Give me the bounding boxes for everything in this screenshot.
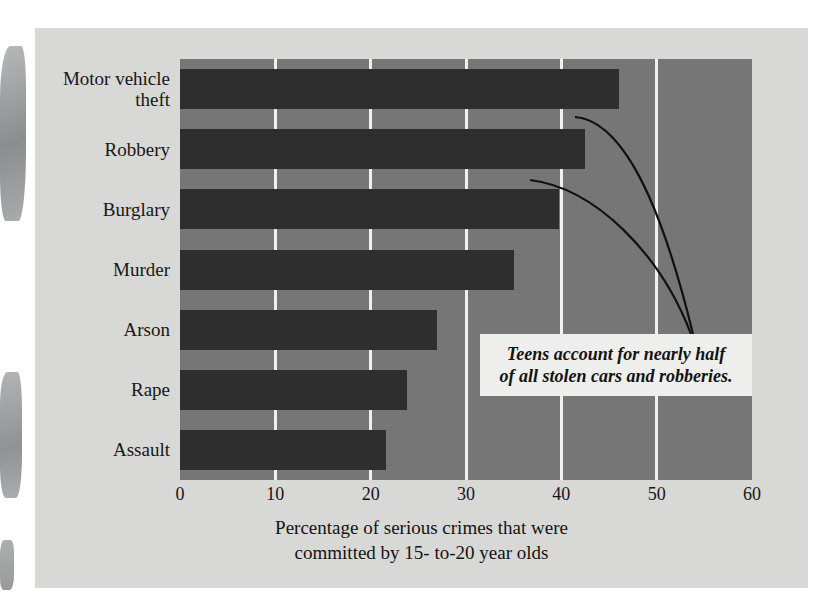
category-label: Burglary	[103, 199, 170, 220]
x-tick-label: 40	[552, 484, 570, 505]
plot-area	[180, 59, 752, 480]
x-tick-label: 0	[176, 484, 185, 505]
bar	[180, 430, 386, 470]
bar	[180, 370, 407, 410]
gridline-50	[655, 59, 658, 480]
page-bleed-artifact-bottom	[0, 540, 14, 590]
bar	[180, 129, 585, 169]
annotation-callout: Teens account for nearly half of all sto…	[480, 334, 752, 396]
category-label: Murder	[113, 259, 170, 280]
figure-card: Motor vehicle theftRobberyBurglaryMurder…	[35, 28, 808, 588]
category-axis: Motor vehicle theftRobberyBurglaryMurder…	[35, 59, 175, 480]
category-label: Motor vehicle theft	[63, 68, 170, 110]
x-tick-label: 50	[648, 484, 666, 505]
x-axis-caption: Percentage of serious crimes that were c…	[35, 515, 808, 565]
page-bleed-artifact-top	[0, 46, 26, 221]
category-label: Robbery	[105, 139, 170, 160]
category-label: Rape	[131, 379, 170, 400]
page-bleed-artifact-middle	[0, 372, 22, 498]
bar	[180, 69, 619, 109]
bar	[180, 189, 559, 229]
x-tick-label: 20	[362, 484, 380, 505]
annotation-text: Teens account for nearly half of all sto…	[499, 343, 732, 387]
bar	[180, 250, 514, 290]
x-tick-label: 30	[457, 484, 475, 505]
category-label: Assault	[113, 439, 170, 460]
x-tick-label: 10	[266, 484, 284, 505]
category-label: Arson	[124, 319, 170, 340]
bar	[180, 310, 437, 350]
gridline-40	[560, 59, 563, 480]
x-tick-label: 60	[743, 484, 761, 505]
